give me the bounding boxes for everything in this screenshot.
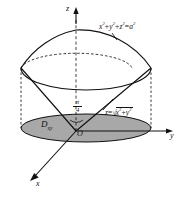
sphere-equation-label: x2+y2+z2=a2 [99, 22, 135, 30]
angle-label: π 4 [73, 99, 82, 113]
z-axis-label: z [66, 5, 69, 13]
projection-region-label: Dxy [41, 120, 52, 131]
sphere-eq-rhs-exp: 2 [133, 21, 135, 26]
cone-eq-radicand: x2+y2 [116, 107, 133, 116]
y-axis-label: y [170, 132, 174, 140]
domain-subscript: xy [48, 125, 53, 131]
cone-eq-y-exp: 2 [129, 107, 131, 112]
origin-label: O [77, 130, 83, 138]
x-axis-label: x [36, 180, 40, 188]
geometry-figure [0, 0, 181, 200]
intersection-circle-front [21, 68, 151, 90]
angle-denominator: 4 [73, 107, 82, 114]
cone-equation-label: z=√x2+y2 [105, 107, 133, 116]
z-axis-arrowhead [73, 7, 78, 14]
angle-numerator: π [73, 99, 82, 106]
intersection-circle-back [21, 53, 132, 68]
sphere-cap-arc [21, 30, 151, 68]
